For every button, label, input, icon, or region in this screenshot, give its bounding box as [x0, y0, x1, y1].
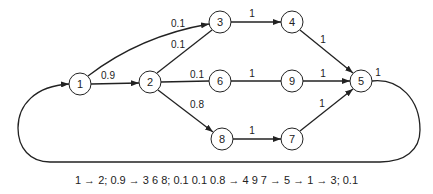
- node-1-label: 1: [77, 78, 83, 90]
- weight-3-4: 1: [249, 8, 255, 19]
- node-4-label: 4: [289, 16, 295, 28]
- edge-4-5: [300, 30, 353, 73]
- node-9-label: 9: [289, 75, 295, 87]
- node-6-label: 6: [217, 75, 223, 87]
- flow-graph: 1 2 3 4 6 9 5 8 7 0.1 0.1 0.9 0.1 0.8 1 …: [0, 0, 433, 194]
- edge-2-8: [158, 90, 213, 132]
- node-3-label: 3: [217, 16, 223, 28]
- weight-2-3: 0.1: [171, 39, 185, 50]
- weight-4-5: 1: [320, 34, 326, 45]
- node-8-label: 8: [219, 133, 225, 145]
- weight-9-5: 1: [320, 68, 326, 79]
- edge-2-3: [157, 30, 212, 73]
- diagram-caption: 1 → 2; 0.9 → 3 6 8; 0.1 0.1 0.8 → 4 9 7 …: [0, 174, 433, 186]
- weight-6-9: 1: [249, 68, 255, 79]
- node-7-label: 7: [289, 133, 295, 145]
- weight-8-7: 1: [249, 125, 255, 136]
- weight-2-6: 0.1: [190, 69, 204, 80]
- weight-1-3: 0.1: [171, 18, 185, 29]
- node-2-label: 2: [147, 76, 153, 88]
- edge-1-2: [91, 83, 139, 84]
- edge-7-5: [300, 89, 353, 131]
- edge-2-6: [161, 81, 209, 82]
- weight-7-5: 1: [319, 98, 325, 109]
- weight-2-8: 0.8: [190, 99, 204, 110]
- weight-5-1: 1: [375, 67, 381, 78]
- weight-1-2: 0.9: [101, 70, 115, 81]
- node-5-label: 5: [358, 75, 364, 87]
